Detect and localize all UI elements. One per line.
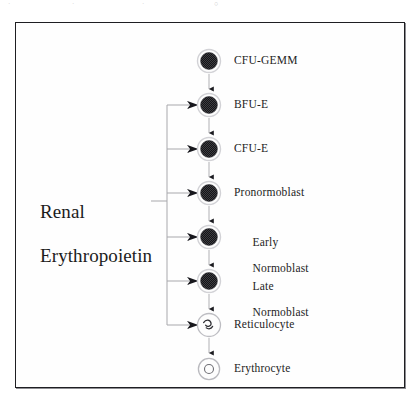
cell-glyph-reticulocyte	[198, 314, 221, 337]
stage-label-pronormoblast: Pronormoblast	[234, 186, 304, 199]
scan-artifact: ·	[142, 1, 144, 8]
cell-glyph-early-normoblast	[198, 226, 221, 249]
scan-artifact: ○	[214, 1, 218, 8]
cell-glyph-erythrocyte	[198, 358, 219, 379]
stage-label-line: Late	[252, 280, 273, 292]
renal-label-line2: Erythropoietin	[40, 245, 152, 266]
stage-label-bfu-e: BFU-E	[234, 98, 268, 111]
erythropoiesis-diagram: CFU-GEMM BFU-E CFU-E Pronormoblast Early…	[16, 23, 406, 389]
cell-glyph-cfu-gemm	[198, 50, 221, 73]
cell-glyph-bfu-e	[198, 94, 221, 117]
stage-label-line: Early	[252, 236, 278, 248]
stage-label-line: Normoblast	[252, 306, 308, 318]
scan-artifact: ·	[72, 1, 74, 8]
stage-label-reticulocyte: Reticulocyte	[234, 318, 295, 331]
scan-artifact: ·	[8, 1, 10, 8]
stage-label-erythrocyte: Erythrocyte	[234, 362, 290, 375]
cell-glyph-pronormoblast	[198, 182, 221, 205]
cell-glyph-late-normoblast	[198, 270, 221, 293]
stage-label-cfu-gemm: CFU-GEMM	[234, 54, 298, 67]
figure-frame: CFU-GEMM BFU-E CFU-E Pronormoblast Early…	[15, 22, 405, 388]
renal-label-line1: Renal	[40, 201, 85, 222]
cell-glyph-cfu-e	[198, 138, 221, 161]
scan-artifact-band: · · · ○	[0, 0, 419, 22]
renal-erythropoietin-label: Renal Erythropoietin	[40, 179, 200, 267]
stage-label-cfu-e: CFU-E	[234, 142, 268, 155]
